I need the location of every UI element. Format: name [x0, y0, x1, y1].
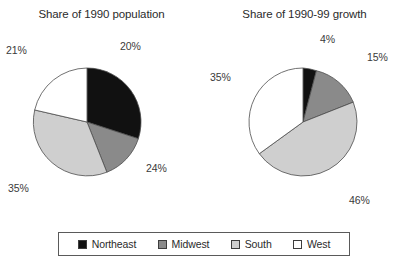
legend-item-west[interactable]: West	[293, 238, 330, 250]
legend-label: Northeast	[92, 238, 137, 250]
chart-title-left: Share of 1990 population	[0, 8, 203, 20]
pie-right	[248, 67, 358, 177]
pie-right-label-midwest: 15%	[367, 51, 388, 63]
pie-right-label-west: 35%	[210, 71, 231, 83]
pie-chart-panel-population: Share of 1990 population 20% 24% 35% 21%	[0, 0, 203, 225]
legend-label: South	[245, 238, 272, 250]
pie-left	[32, 67, 142, 177]
legend-swatch-icon	[293, 240, 302, 249]
pie-left-label-midwest: 24%	[146, 162, 167, 174]
pie-left-label-south: 35%	[8, 182, 29, 194]
legend-item-northeast[interactable]: Northeast	[78, 238, 137, 250]
legend-label: Midwest	[172, 238, 210, 250]
pie-right-label-south: 46%	[349, 194, 370, 206]
legend-swatch-icon	[158, 240, 167, 249]
figure-root: Share of 1990 population 20% 24% 35% 21%…	[0, 0, 406, 272]
pie-right-svg	[248, 67, 358, 177]
legend-swatch-icon	[231, 240, 240, 249]
pie-right-label-northeast: 4%	[320, 33, 335, 45]
legend-label: West	[307, 238, 330, 250]
legend: Northeast Midwest South West	[58, 232, 350, 256]
pie-chart-panel-growth: Share of 1990-99 growth 4% 15% 46% 35%	[203, 0, 406, 225]
pie-left-label-west: 21%	[6, 44, 27, 56]
pie-left-label-northeast: 20%	[120, 40, 141, 52]
chart-title-right: Share of 1990-99 growth	[203, 8, 406, 20]
legend-item-midwest[interactable]: Midwest	[158, 238, 210, 250]
legend-item-south[interactable]: South	[231, 238, 272, 250]
pie-left-svg	[32, 67, 142, 177]
legend-swatch-icon	[78, 240, 87, 249]
